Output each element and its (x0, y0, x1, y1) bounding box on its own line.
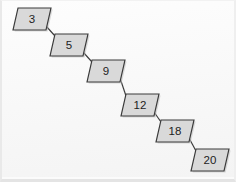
node-label: 18 (168, 125, 181, 137)
node-12[interactable]: 12 (121, 94, 161, 118)
node-label: 3 (29, 13, 36, 25)
node-20[interactable]: 20 (191, 149, 231, 173)
node-label: 5 (66, 39, 73, 51)
chain-diagram: 359121820 (0, 0, 236, 182)
node-label: 12 (133, 99, 146, 111)
node-label: 20 (203, 154, 216, 166)
node-9[interactable]: 9 (87, 60, 127, 84)
node-5[interactable]: 5 (50, 34, 90, 58)
node-18[interactable]: 18 (156, 120, 196, 144)
node-layer: 359121820 (13, 8, 231, 173)
diagram-canvas: 359121820 (0, 0, 236, 182)
node-label: 9 (103, 65, 110, 77)
node-3[interactable]: 3 (13, 8, 53, 32)
